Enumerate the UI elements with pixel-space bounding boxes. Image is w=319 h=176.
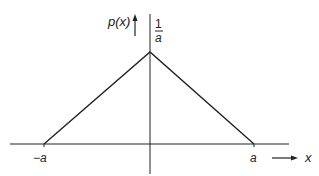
right-arrow-icon xyxy=(272,156,298,161)
left-tick-label: −a xyxy=(33,151,47,165)
x-axis-label: x xyxy=(304,150,312,165)
triangular-pdf-diagram: p(x) 1 a −a a x xyxy=(0,0,319,176)
peak-label-numerator: 1 xyxy=(155,17,162,31)
peak-label-denominator: a xyxy=(155,31,162,45)
up-arrow-icon xyxy=(133,14,138,36)
right-tick-label: a xyxy=(250,151,257,165)
triangle-pdf-curve xyxy=(44,52,254,144)
y-axis-label: p(x) xyxy=(107,14,130,29)
